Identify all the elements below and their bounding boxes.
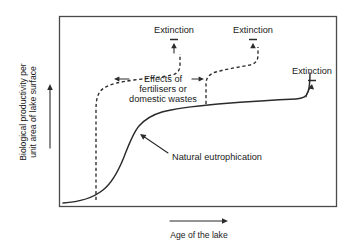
extinction-label-1: Extinction	[154, 25, 194, 35]
dashed-branch-mature	[206, 47, 258, 104]
x-axis-label: Age of the lake	[170, 230, 228, 240]
x-axis-arrowhead	[222, 218, 228, 224]
extinction-label-3: Extinction	[292, 66, 332, 76]
y-axis-arrowhead	[47, 84, 53, 90]
extinction-label-2: Extinction	[233, 25, 273, 35]
y-axis-label-line1: Biological productivity perunit area of …	[18, 63, 38, 161]
natural-eutrophication-label: Natural eutrophication	[172, 152, 262, 162]
extinction-arrowhead-1	[171, 43, 177, 48]
eutrophication-diagram: Extinction Extinction Extinction Effects…	[0, 0, 355, 250]
natural-arrowhead	[140, 134, 146, 140]
plot-frame	[60, 17, 337, 207]
figure-canvas: Extinction Extinction Extinction Effects…	[0, 0, 355, 250]
effects-label-line3: domestic wastes	[129, 94, 197, 104]
extinction-arrowhead-2	[250, 43, 256, 48]
natural-arrow-shaft	[143, 136, 168, 153]
effects-left-arrowhead	[114, 76, 119, 81]
effects-label-line1: Effects of	[144, 74, 183, 84]
effects-right-arrowhead	[199, 76, 204, 81]
effects-label-line2: fertilisers or	[139, 84, 186, 94]
